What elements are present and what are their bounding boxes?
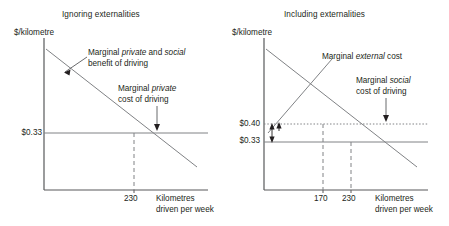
arrowhead-social-cost-right [383, 115, 389, 122]
plot-area-right [224, 0, 448, 226]
plot-area-left [0, 0, 224, 226]
panel-ignoring-externalities: Ignoring externalities $/kilometre $0.33… [0, 0, 224, 226]
panel-including-externalities: Including externalities $/kilometre $0.4… [224, 0, 448, 226]
marginal-external-cost-line-right [268, 59, 332, 133]
arrowhead-private-cost-left [154, 124, 160, 131]
marginal-benefit-line-left [46, 49, 197, 167]
marginal-benefit-line-right [266, 49, 417, 167]
annotation-pointer-benefit-left [65, 57, 87, 72]
